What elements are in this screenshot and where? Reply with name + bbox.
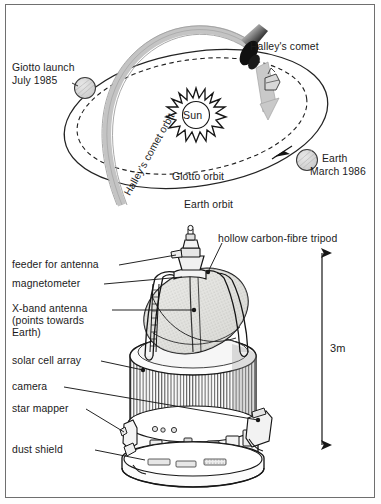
hollow-tripod-label: hollow carbon-fibre tripod [218,233,337,245]
dust-shield-label: dust shield [12,444,63,456]
spacecraft-diagram-svg [0,0,381,504]
camera-label: camera [12,381,47,393]
spacecraft-diagram-panel: hollow carbon-fibre tripod feeder for an… [0,0,381,504]
antenna-feeder [171,225,204,270]
x-band-antenna-label-line1: X-band antenna [12,303,87,315]
x-band-antenna-label-line3: Earth) [12,327,41,339]
height-dimension-label: 3m [330,342,345,354]
solar-cell-array-label: solar cell array [12,355,81,367]
dust-shield [122,442,264,487]
magnetometer-label: magnetometer [12,278,80,290]
x-band-antenna-label-line2: (points towards [12,315,84,327]
figure-page: Giotto launch July 1985 Halley's comet H… [0,0,381,504]
feeder-for-antenna-label: feeder for antenna [12,259,99,271]
star-mapper-pod [120,420,137,456]
star-mapper-label: star mapper [12,403,69,415]
